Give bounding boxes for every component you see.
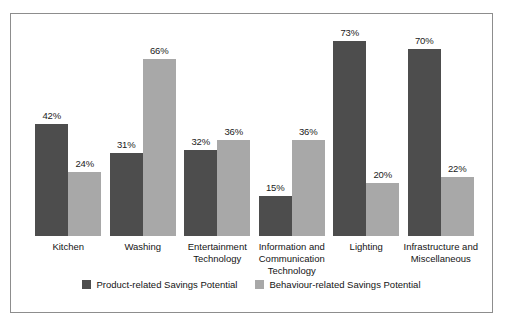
bar-behaviour-5: 22% [441, 177, 474, 236]
bar-group: 32%36%Entertainment Technology [184, 22, 250, 236]
bar-value-label: 66% [150, 45, 169, 56]
bar-product-4: 73% [333, 41, 366, 236]
bar-value-label: 73% [340, 27, 359, 38]
legend-label-behaviour: Behaviour-related Savings Potential [269, 279, 420, 290]
category-label-5: Infrastructure and Miscellaneous [383, 241, 499, 265]
bar-group-bars: 15%36% [259, 22, 325, 236]
legend-label-product: Product-related Savings Potential [96, 279, 237, 290]
bar-group: 15%36%Information and Communication Tech… [259, 22, 325, 236]
bar-group-bars: 42%24% [35, 22, 101, 236]
bar-group: 70%22%Infrastructure and Miscellaneous [408, 22, 474, 236]
bar-behaviour-0: 24% [68, 172, 101, 236]
bar-group-bars: 32%36% [184, 22, 250, 236]
bar-product-0: 42% [35, 124, 68, 236]
bar-group-bars: 70%22% [408, 22, 474, 236]
bar-group-bars: 73%20% [333, 22, 399, 236]
bar-value-label: 70% [415, 35, 434, 46]
bar-value-label: 42% [42, 110, 61, 121]
plot-area: 42%24%Kitchen31%66%Washing32%36%Entertai… [31, 22, 478, 236]
bar-value-label: 24% [75, 158, 94, 169]
bar-value-label: 36% [299, 126, 318, 137]
bar-value-label: 22% [448, 163, 467, 174]
bar-product-2: 32% [184, 150, 217, 236]
legend-item-product: Product-related Savings Potential [82, 279, 237, 290]
chart-legend: Product-related Savings Potential Behavi… [11, 279, 492, 290]
bar-product-1: 31% [110, 153, 143, 236]
bar-behaviour-2: 36% [217, 140, 250, 236]
bar-behaviour-1: 66% [143, 59, 176, 236]
bar-value-label: 36% [224, 126, 243, 137]
bar-value-label: 20% [373, 169, 392, 180]
bar-value-label: 32% [191, 136, 210, 147]
bar-behaviour-3: 36% [292, 140, 325, 236]
bar-group: 42%24%Kitchen [35, 22, 101, 236]
bar-value-label: 15% [266, 182, 285, 193]
legend-swatch-product-icon [82, 280, 91, 289]
bar-group-bars: 31%66% [110, 22, 176, 236]
legend-item-behaviour: Behaviour-related Savings Potential [255, 279, 420, 290]
bar-product-3: 15% [259, 196, 292, 236]
bar-product-5: 70% [408, 49, 441, 236]
bar-group: 73%20%Lighting [333, 22, 399, 236]
legend-swatch-behaviour-icon [255, 280, 264, 289]
bar-group: 31%66%Washing [110, 22, 176, 236]
chart-figure: 42%24%Kitchen31%66%Washing32%36%Entertai… [10, 13, 493, 313]
bar-value-label: 31% [117, 139, 136, 150]
bar-behaviour-4: 20% [366, 183, 399, 237]
